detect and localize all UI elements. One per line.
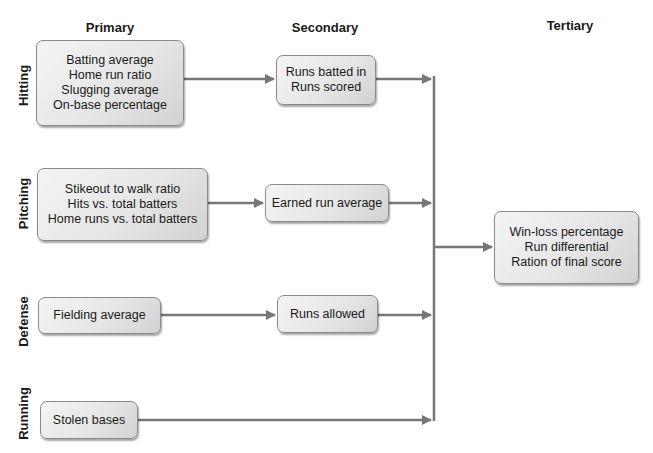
metric-earned-run-average: Earned run average — [272, 196, 383, 211]
metric-hits-vs-batters: Hits vs. total batters — [68, 197, 178, 212]
metric-batting-average: Batting average — [66, 53, 154, 68]
metric-stolen-bases: Stolen bases — [53, 413, 125, 428]
box-running-primary: Stolen bases — [40, 401, 138, 439]
metric-runs-allowed: Runs allowed — [290, 307, 365, 322]
metric-slugging-average: Slugging average — [61, 83, 158, 98]
metric-ratio-final-score: Ration of final score — [511, 255, 621, 270]
metric-run-differential: Run differential — [525, 240, 609, 255]
box-defense-secondary: Runs allowed — [277, 295, 378, 333]
metric-on-base-percentage: On-base percentage — [53, 98, 167, 113]
box-tertiary: Win-loss percentage Run differential Rat… — [494, 211, 639, 284]
metric-runs-batted-in: Runs batted in — [286, 65, 367, 80]
metric-win-loss-percentage: Win-loss percentage — [510, 225, 624, 240]
metric-strikeout-walk-ratio: Stikeout to walk ratio — [65, 182, 180, 197]
box-pitching-secondary: Earned run average — [265, 184, 389, 222]
metric-home-runs-vs-batters: Home runs vs. total batters — [48, 212, 197, 227]
box-defense-primary: Fielding average — [38, 297, 161, 334]
metric-home-run-ratio: Home run ratio — [69, 68, 152, 83]
box-hitting-secondary: Runs batted in Runs scored — [276, 55, 376, 105]
box-pitching-primary: Stikeout to walk ratio Hits vs. total ba… — [37, 168, 208, 241]
metric-runs-scored: Runs scored — [291, 80, 361, 95]
metric-fielding-average: Fielding average — [53, 308, 145, 323]
box-hitting-primary: Batting average Home run ratio Slugging … — [36, 40, 184, 126]
